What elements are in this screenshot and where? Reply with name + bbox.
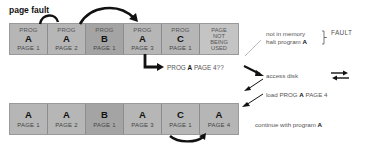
brace-icon xyxy=(322,31,327,44)
load-note: load PROG A PAGE 4 xyxy=(266,91,327,98)
arrowhead-icon xyxy=(157,63,164,71)
exchange-right-arrow-icon xyxy=(343,71,348,76)
request-prefix: PROG xyxy=(167,64,188,71)
fault-label: FAULT xyxy=(331,29,352,36)
continue-program: A xyxy=(318,121,322,128)
halt-note: halt program A xyxy=(266,38,307,45)
halt-program: A xyxy=(302,38,306,45)
load-suffix: PAGE 4 xyxy=(304,91,328,98)
request-note: PROG A PAGE 4?? xyxy=(167,64,224,71)
load-to-frame-arrow-icon xyxy=(246,94,263,105)
continue-note: continue with program A xyxy=(255,121,322,128)
access-disk-note: access disk xyxy=(266,72,298,79)
jump-arrow-icon xyxy=(40,15,58,24)
jump-arrow-icon xyxy=(170,136,203,141)
arrowhead-icon xyxy=(255,70,264,76)
connector-line xyxy=(245,40,261,56)
load-prefix: load PROG xyxy=(266,91,299,98)
continue-prefix: continue with program xyxy=(255,121,318,128)
request-arrow-icon xyxy=(145,54,158,67)
halt-prefix: halt program xyxy=(266,38,302,45)
not-in-memory-note: not in memory xyxy=(266,30,305,37)
request-suffix: PAGE 4?? xyxy=(192,64,224,71)
jump-arrow-icon xyxy=(80,8,134,24)
exchange-left-arrow-icon xyxy=(332,76,337,81)
disk-to-load-arrow-icon xyxy=(248,79,263,89)
